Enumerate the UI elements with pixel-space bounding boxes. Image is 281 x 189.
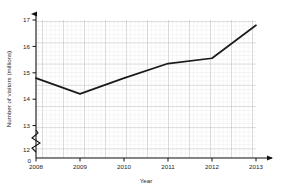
x-tick-label-2009: 2009 <box>73 163 87 170</box>
y-tick-label-16: 16 <box>23 43 30 50</box>
x-tick-label-2011: 2011 <box>161 163 175 170</box>
x-tick-label-2012: 2012 <box>205 163 219 170</box>
y-tick-label-12: 12 <box>23 146 30 153</box>
x-tick-label-2008: 2008 <box>29 163 43 170</box>
y-tick-label-15: 15 <box>23 69 30 76</box>
y-tick-label-17: 17 <box>23 16 30 23</box>
chart-canvas: 17 16 15 14 13 12 0 2008 2009 2010 2011 … <box>0 0 281 189</box>
y-axis-title: Number of visitors (millions) <box>5 51 12 127</box>
x-axis-title: Year <box>140 177 153 184</box>
x-tick-label-2010: 2010 <box>117 163 131 170</box>
x-tick-label-2013: 2013 <box>249 163 263 170</box>
line-chart: 17 16 15 14 13 12 0 2008 2009 2010 2011 … <box>0 0 281 189</box>
y-tick-label-13: 13 <box>23 122 30 129</box>
plot-grid <box>36 20 256 158</box>
y-tick-label-14: 14 <box>23 95 30 102</box>
